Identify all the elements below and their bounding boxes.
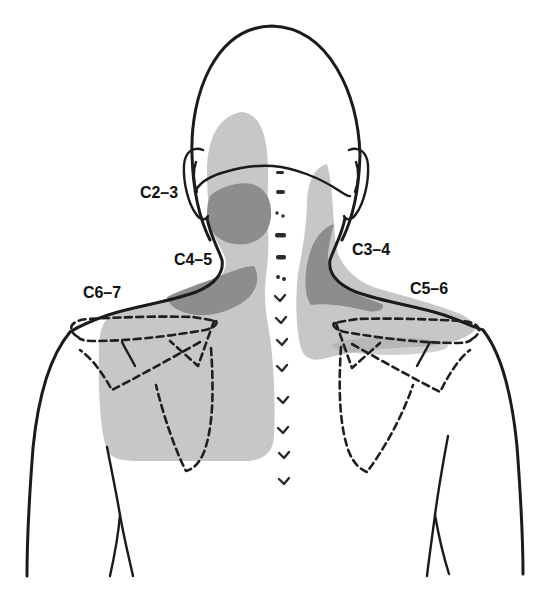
pain-map-figure: C2–3 C4–5 C6–7 C3–4 C5–6: [0, 0, 550, 595]
left-arm-inner: [107, 447, 120, 576]
left-arm-outer: [27, 332, 70, 576]
right-ear-inner: [355, 162, 358, 192]
right-ear: [344, 149, 368, 219]
right-arm-inner-fork: [435, 515, 449, 574]
right-arm-outer: [483, 330, 523, 574]
spinous-process-marks: [275, 171, 289, 484]
figure-canvas: C2–3 C4–5 C6–7 C3–4 C5–6: [0, 0, 550, 595]
label-c4-5: C4–5: [174, 251, 212, 268]
left-arm-inner-fork: [120, 515, 133, 576]
body-outline: [27, 26, 523, 576]
right-arm-inner: [427, 436, 448, 576]
label-c6-7: C6–7: [83, 284, 121, 301]
label-c3-4: C3–4: [352, 241, 390, 258]
left-ear: [184, 149, 208, 219]
left-ear-inner: [194, 162, 197, 192]
region-dark-c2-3: [207, 183, 271, 244]
label-c2-3: C2–3: [140, 184, 178, 201]
label-c5-6: C5–6: [410, 280, 448, 297]
